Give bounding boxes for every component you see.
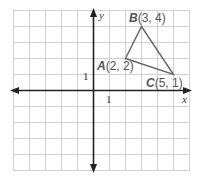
x-axis-label: x [181, 93, 187, 105]
point-a-label: A(2, 2) [96, 59, 134, 73]
y-axis-label: y [98, 9, 104, 21]
coordinate-plane: y x 1 1 A(2, 2) B(3, 4) C(5, 1) [0, 0, 199, 179]
arrow-left-icon [10, 87, 19, 94]
arrow-up-icon [90, 8, 97, 17]
y-tick-label: 1 [83, 70, 89, 82]
arrow-down-icon [90, 164, 97, 173]
point-b-label: B(3, 4) [129, 11, 166, 25]
point-c-label: C(5, 1) [146, 76, 183, 90]
x-tick-label: 1 [106, 93, 112, 105]
